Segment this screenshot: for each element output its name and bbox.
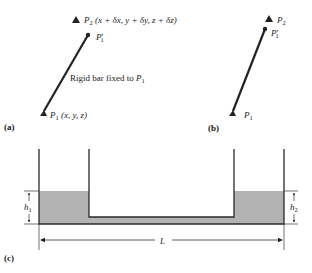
panel-b: P2 P′1 P1 (b) [208,15,286,133]
figure-canvas: P2 (x + δx, y + δy, z + δz) P′1 Rigid ba… [0,0,312,273]
p2-triangle-marker-b [265,15,273,22]
svg-text:P2 (x + δx, y + δy, z + δz): P2 (x + δx, y + δy, z + δz) [83,15,177,26]
svg-text:Rigid bar fixed to P1: Rigid bar fixed to P1 [70,73,145,84]
fluid-region [39,191,284,224]
p1-triangle-marker-b [229,110,236,116]
panel-b-label: (b) [208,123,219,133]
p1prime-dot-a [86,33,90,37]
p2-triangle-marker [72,16,80,23]
svg-text:P2: P2 [276,15,286,26]
p1-triangle-marker-a [40,110,47,116]
panel-c: h1 h2 L (c) [4,149,298,263]
svg-text:h1: h1 [24,202,32,213]
length-label: L [159,236,165,246]
svg-text:P1 (x, y, z): P1 (x, y, z) [49,110,87,121]
svg-text:P′1: P′1 [95,32,104,43]
p1-coords: (x, y, z) [61,110,87,120]
bar-description: Rigid bar fixed to [70,73,136,83]
p1prime-dot-b [263,27,267,31]
svg-text:P1: P1 [243,110,253,121]
panel-a-label: (a) [4,122,15,132]
rigid-bar-b [233,29,265,111]
panel-c-label: (c) [4,253,14,263]
p2-coords: (x + δx, y + δy, z + δz) [95,15,177,25]
svg-text:P′1: P′1 [270,28,279,39]
panel-a: P2 (x + δx, y + δy, z + δz) P′1 Rigid ba… [4,15,177,132]
svg-text:h2: h2 [290,202,298,213]
